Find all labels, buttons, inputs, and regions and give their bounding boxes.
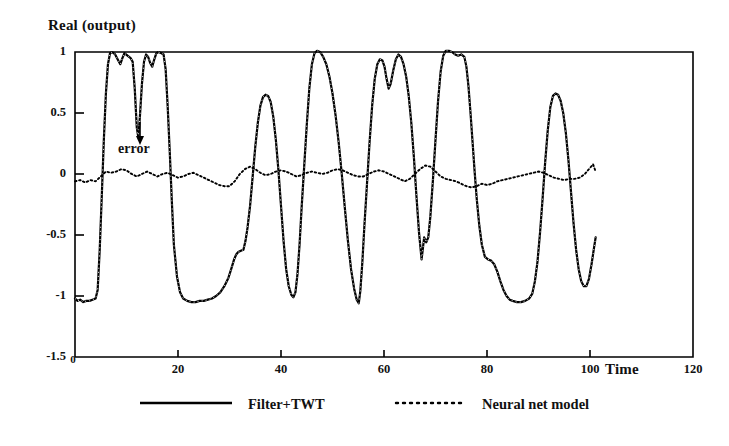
x-tick-label: 40 (251, 362, 311, 377)
x-tick-label: 120 (663, 362, 723, 377)
error-arrow-head (136, 136, 144, 145)
x-tick-label: 20 (148, 362, 208, 377)
y-tick-label: 0.5 (20, 105, 66, 120)
x-tick-label: 100 (560, 362, 620, 377)
data-series-group (75, 51, 596, 304)
y-tick-label: -0.5 (20, 227, 66, 242)
x-tick-label: 60 (354, 362, 414, 377)
x-tick-label: 0 (43, 353, 103, 365)
y-tick-label: 1 (20, 44, 66, 59)
y-tick-label: -1 (20, 288, 66, 303)
chart-figure: Real (output) Time error Filter+TWT Neur… (0, 0, 729, 446)
axis-ticks (75, 113, 590, 357)
x-tick-label: 80 (457, 362, 517, 377)
plot-canvas (0, 0, 729, 446)
y-tick-label: 0 (20, 166, 66, 181)
series-line-neural-net (75, 164, 596, 187)
